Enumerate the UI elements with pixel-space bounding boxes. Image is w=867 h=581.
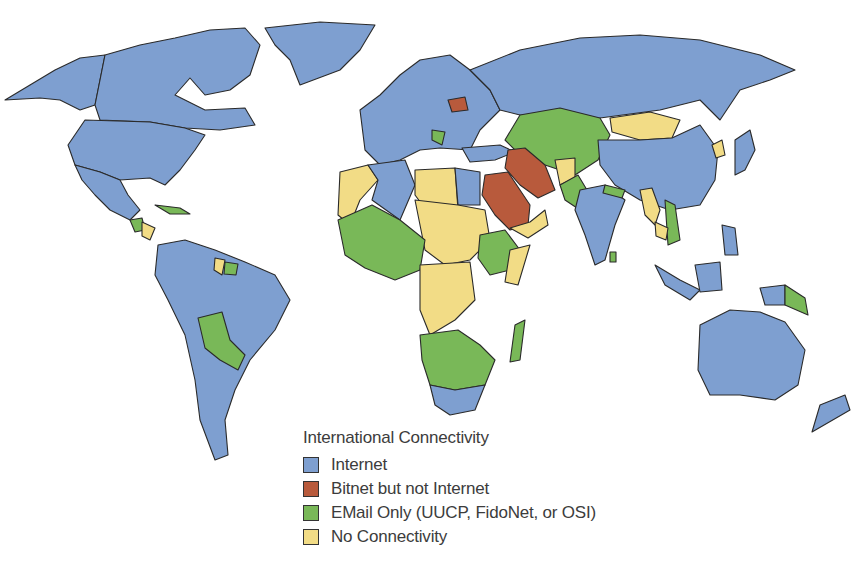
legend: International Connectivity Internet Bitn… [303, 428, 596, 549]
swatch-email [303, 505, 319, 521]
legend-item-email: EMail Only (UUCP, FidoNet, or OSI) [303, 501, 596, 525]
region-madagascar [510, 320, 525, 362]
region-canada [95, 28, 260, 130]
region-new-guinea-west [760, 285, 785, 305]
region-new-zealand [812, 395, 850, 432]
legend-label: No Connectivity [331, 527, 447, 547]
legend-label: Bitnet but not Internet [331, 479, 489, 499]
region-indochina-none [655, 222, 668, 240]
region-indonesia [655, 265, 700, 300]
legend-title: International Connectivity [303, 428, 596, 448]
legend-item-bitnet: Bitnet but not Internet [303, 477, 596, 501]
region-belarus [448, 97, 468, 112]
region-south-africa [430, 385, 485, 415]
region-alaska [5, 55, 105, 110]
legend-item-none: No Connectivity [303, 525, 596, 549]
swatch-none [303, 529, 319, 545]
region-egypt [455, 168, 480, 205]
region-cuba [155, 205, 190, 214]
region-philippines [722, 225, 738, 255]
region-papua-new-guinea [785, 285, 808, 315]
swatch-bitnet [303, 481, 319, 497]
region-west-africa [338, 205, 425, 280]
region-southern-africa [420, 330, 495, 390]
region-russia [470, 35, 795, 120]
legend-item-internet: Internet [303, 453, 596, 477]
region-sri-lanka [610, 252, 616, 262]
region-central-africa [420, 262, 475, 335]
legend-label: Internet [331, 455, 387, 475]
region-australia [698, 310, 805, 400]
region-japan [735, 130, 755, 175]
region-guianas-email [224, 262, 238, 275]
swatch-internet [303, 457, 319, 473]
region-greenland [265, 22, 375, 85]
legend-label: EMail Only (UUCP, FidoNet, or OSI) [331, 503, 596, 523]
region-mongolia [610, 112, 680, 140]
region-borneo [695, 262, 722, 292]
region-central-america-none [142, 222, 155, 240]
